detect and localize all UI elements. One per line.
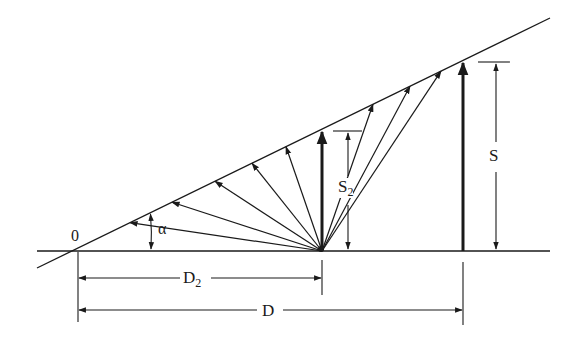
alpha-arc [151, 214, 152, 249]
angle-label: α [158, 221, 166, 237]
origin-label: 0 [71, 228, 79, 244]
s2-label: S2 [338, 178, 353, 198]
s-label: S [489, 147, 498, 164]
d2-label-sub: 2 [195, 276, 201, 290]
s2-label-sub: 2 [347, 185, 353, 199]
d2-label-main: D [183, 268, 195, 287]
d-label: D [262, 302, 274, 319]
fan-arrows [130, 71, 441, 251]
fan-point [318, 246, 324, 252]
slope-line [37, 18, 550, 268]
diagram-canvas [0, 0, 577, 342]
d2-label: D2 [183, 269, 201, 289]
